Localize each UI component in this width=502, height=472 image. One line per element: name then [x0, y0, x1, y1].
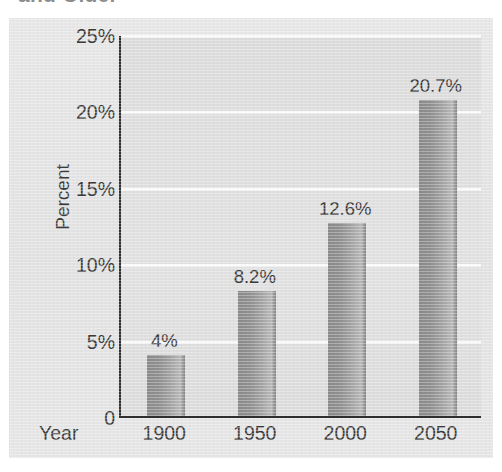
y-axis-tick-label: 20%	[53, 101, 115, 124]
y-axis-tick-label: 25%	[53, 25, 115, 48]
bar-1950	[238, 291, 276, 416]
gridline	[121, 35, 481, 37]
y-axis-tick-label: 15%	[53, 177, 115, 200]
bar-value-label-2000: 12.6%	[319, 198, 371, 220]
chart-figure-panel: Percent 05%10%15%20%25% Year 4%19008.2%1…	[9, 18, 493, 458]
x-axis-tick-label-2050: 2050	[414, 422, 457, 445]
y-axis-tick-label: 5%	[53, 330, 115, 353]
bar-value-label-1900: 4%	[151, 330, 178, 352]
bar-2050	[419, 100, 457, 416]
x-axis-tick-label-1950: 1950	[233, 422, 276, 445]
bar-value-label-2050: 20.7%	[410, 75, 462, 97]
bar-value-label-1950: 8.2%	[234, 266, 276, 288]
y-axis-tick-labels: 05%10%15%20%25%	[47, 18, 115, 458]
x-axis-tick-label-1900: 1900	[143, 422, 186, 445]
x-axis-title: Year	[39, 422, 78, 445]
x-axis-tick-label-2000: 2000	[324, 422, 367, 445]
bar-1900	[147, 355, 185, 416]
bar-2000	[328, 223, 366, 416]
chart-title: and Older	[18, 0, 118, 7]
y-axis-tick-label: 10%	[53, 254, 115, 277]
chart-title-strip: and Older	[0, 0, 502, 9]
